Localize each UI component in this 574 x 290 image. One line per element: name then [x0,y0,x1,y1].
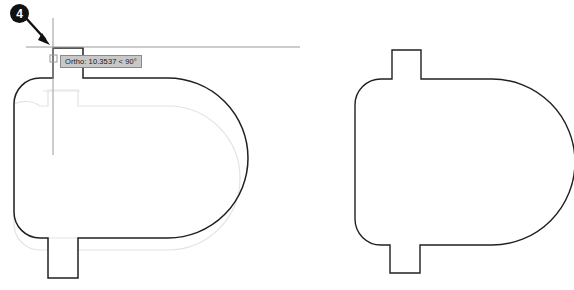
ortho-dynamic-input-tooltip: Ortho: 10.3537 < 90° [60,55,142,68]
callout-arrow-group [25,17,50,45]
ghost-part-outline [14,90,240,250]
left-part-outline-group[interactable] [14,48,248,278]
callout-badge-number: 4 [16,8,23,20]
crosshair-cursor-group [26,18,300,155]
ghost-outline-group [14,90,240,250]
left-part-outline[interactable] [14,48,248,278]
ortho-tooltip-text: Ortho: 10.3537 < 90° [65,56,137,67]
drawing-area[interactable] [0,0,574,290]
right-part-outline[interactable] [355,50,574,273]
right-part-outline-group[interactable] [355,50,574,273]
callout-badge-4: 4 [10,4,29,23]
drawing-canvas[interactable]: Ortho: 10.3537 < 90° 4 [0,0,574,290]
